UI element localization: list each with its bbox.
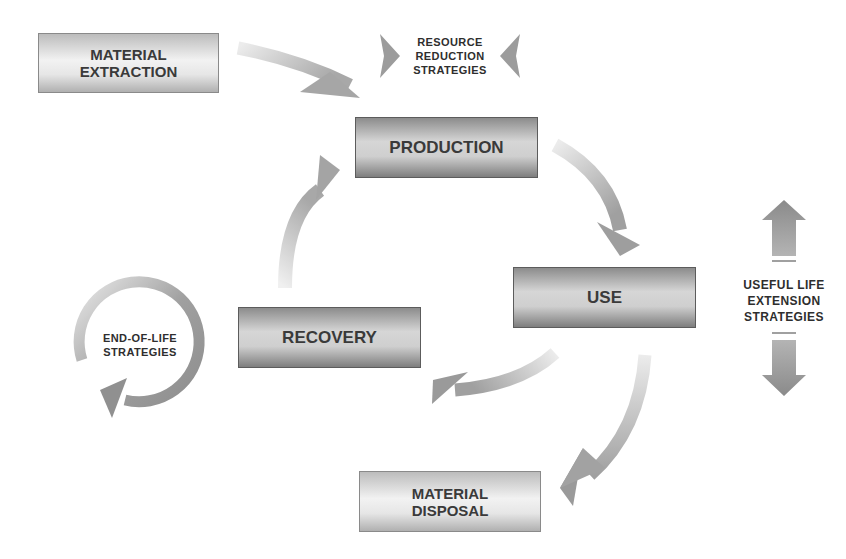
label-line: STRATEGIES <box>725 309 843 325</box>
resource-reduction-right-arrow <box>380 34 400 78</box>
label-line: USEFUL LIFE <box>725 277 843 293</box>
node-use: USE <box>513 267 696 328</box>
node-use-label: USE <box>587 288 622 308</box>
label-line: END-OF-LIFE <box>90 331 190 345</box>
node-material-extraction-line2: EXTRACTION <box>80 63 178 80</box>
label-resource-reduction-strategies: RESOURCE REDUCTION STRATEGIES <box>405 35 495 77</box>
node-production-label: PRODUCTION <box>389 138 503 158</box>
node-material-disposal: MATERIAL DISPOSAL <box>359 471 541 532</box>
arrow-recovery-to-production <box>285 155 340 288</box>
resource-reduction-left-arrow <box>500 34 520 78</box>
label-line: RESOURCE <box>405 35 495 49</box>
node-material-disposal-line2: DISPOSAL <box>412 502 489 519</box>
node-material-disposal-line1: MATERIAL <box>412 485 488 502</box>
node-recovery: RECOVERY <box>238 307 421 368</box>
arrow-extraction-to-production <box>238 48 360 98</box>
node-material-extraction-line1: MATERIAL <box>90 46 166 63</box>
arrow-use-to-disposal <box>560 355 645 506</box>
arrow-use-to-recovery <box>432 353 555 404</box>
arrow-production-to-use <box>555 145 640 256</box>
label-useful-life-extension-strategies: USEFUL LIFE EXTENSION STRATEGIES <box>725 277 843 325</box>
product-lifecycle-diagram: MATERIAL EXTRACTION RESOURCE REDUCTION S… <box>0 0 846 559</box>
label-line: STRATEGIES <box>405 63 495 77</box>
useful-life-down-arrow <box>762 332 806 396</box>
label-line: EXTENSION <box>725 293 843 309</box>
node-material-extraction: MATERIAL EXTRACTION <box>38 33 219 93</box>
label-end-of-life-strategies: END-OF-LIFE STRATEGIES <box>90 331 190 359</box>
useful-life-up-arrow <box>762 200 806 262</box>
node-production: PRODUCTION <box>355 117 538 178</box>
node-recovery-label: RECOVERY <box>282 328 377 348</box>
label-line: STRATEGIES <box>90 345 190 359</box>
label-line: REDUCTION <box>405 49 495 63</box>
